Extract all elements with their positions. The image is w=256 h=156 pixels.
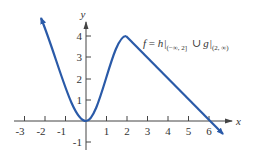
x-tick-label: 4 — [165, 125, 171, 137]
x-axis-label: x — [235, 115, 241, 127]
y-tick-label: -1 — [73, 136, 82, 148]
x-tick-label: 6 — [206, 125, 212, 137]
function-annotation: f = h|(−∞, 2]∪g|(2, ∞) — [143, 37, 229, 52]
x-tick-label: 3 — [145, 125, 151, 137]
x-tick-label: 1 — [104, 125, 110, 137]
piecewise-function-graph: -3 -2 -1 1 2 3 4 5 6 x -1 1 2 3 4 y f = … — [0, 0, 256, 156]
x-tick-label: -1 — [57, 125, 66, 137]
y-tick-label: 4 — [77, 30, 83, 42]
y-tick-label: 3 — [77, 51, 83, 63]
y-tick-label: 1 — [77, 94, 83, 106]
x-tick-label: 5 — [186, 125, 192, 137]
y-axis: -1 1 2 3 4 y — [73, 8, 91, 150]
x-tick-label: -2 — [36, 125, 45, 137]
x-tick-label: -3 — [15, 125, 25, 137]
y-axis-label: y — [80, 8, 86, 20]
parabola-h-curve — [41, 18, 126, 121]
y-tick-label: 2 — [77, 73, 83, 85]
x-tick-label: 2 — [124, 125, 130, 137]
